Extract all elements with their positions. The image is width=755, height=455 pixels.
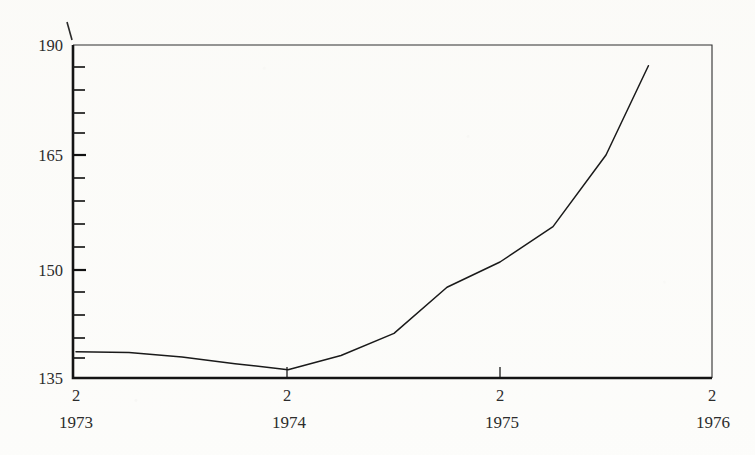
- data-series-line: [76, 66, 648, 370]
- x-year-label-1976: 1976: [696, 413, 730, 432]
- chart-page: 190 165 150 135 2 2 2 2 1973 1974 1975 1…: [0, 0, 755, 455]
- x-tick-label-1976-q2: 2: [708, 386, 716, 405]
- x-tick-label-1973-q2: 2: [72, 386, 80, 405]
- line-chart-svg: 190 165 150 135 2 2 2 2 1973 1974 1975 1…: [0, 0, 755, 455]
- y-tick-label-165: 165: [38, 146, 63, 165]
- x-year-label-1973: 1973: [59, 413, 93, 432]
- plot-frame-outline: [73, 45, 712, 378]
- axis-unit-flag-icon: [67, 22, 72, 40]
- x-tick-label-1974-q2: 2: [283, 386, 291, 405]
- y-tick-label-150: 150: [38, 261, 63, 280]
- x-tick-label-1975-q2: 2: [496, 386, 504, 405]
- y-tick-label-190: 190: [38, 36, 63, 55]
- x-year-label-1975: 1975: [485, 413, 519, 432]
- y-tick-label-135: 135: [38, 369, 63, 388]
- x-axis-ticks: [287, 367, 500, 377]
- plot-axes: [73, 45, 712, 378]
- y-axis-minor-ticks: [73, 67, 85, 358]
- chart-plot-area: 190 165 150 135 2 2 2 2 1973 1974 1975 1…: [0, 0, 755, 455]
- y-axis-major-ticks: [73, 155, 86, 270]
- x-year-label-1974: 1974: [272, 413, 307, 432]
